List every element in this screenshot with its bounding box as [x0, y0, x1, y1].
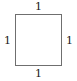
- side-label-left: 1: [1, 35, 14, 46]
- square-diagram: 1 1 1 1: [0, 0, 77, 81]
- side-label-right: 1: [63, 35, 76, 46]
- square-shape: [15, 14, 62, 66]
- side-label-bottom: 1: [0, 68, 77, 79]
- side-label-top: 1: [0, 1, 77, 12]
